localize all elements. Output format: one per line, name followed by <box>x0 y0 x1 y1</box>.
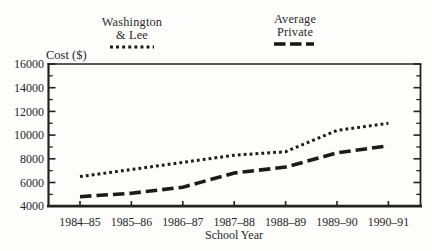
x-tick-label: 1990–91 <box>368 215 409 229</box>
y-tick-label: 10000 <box>14 128 44 142</box>
series-line-average-private <box>80 146 388 197</box>
x-tick-label: 1989–90 <box>316 215 357 229</box>
y-tick-label: 8000 <box>20 152 44 166</box>
x-tick-label: 1984–85 <box>59 215 100 229</box>
cost-comparison-chart: Washington & Lee Average Private Cost ($… <box>0 0 432 251</box>
x-tick-label: 1986–87 <box>162 215 203 229</box>
series-line-washington-lee <box>80 123 388 176</box>
y-tick-label: 4000 <box>20 199 44 213</box>
x-axis-labels: 1984–851985–861986–871987–881988–891989–… <box>59 215 409 229</box>
y-tick-label: 12000 <box>14 105 44 119</box>
y-axis-labels: 40006000800010000120001400016000 <box>14 57 44 213</box>
y-axis-ticks <box>49 64 421 206</box>
x-tick-label: 1987–88 <box>214 215 255 229</box>
y-tick-label: 6000 <box>20 176 44 190</box>
plot-area: 400060008000100001200014000160001984–851… <box>0 0 432 251</box>
plot-frame <box>47 63 422 206</box>
y-tick-label: 16000 <box>14 57 44 71</box>
y-tick-label: 14000 <box>14 81 44 95</box>
x-tick-label: 1985–86 <box>111 215 152 229</box>
x-tick-label: 1988–89 <box>265 215 306 229</box>
